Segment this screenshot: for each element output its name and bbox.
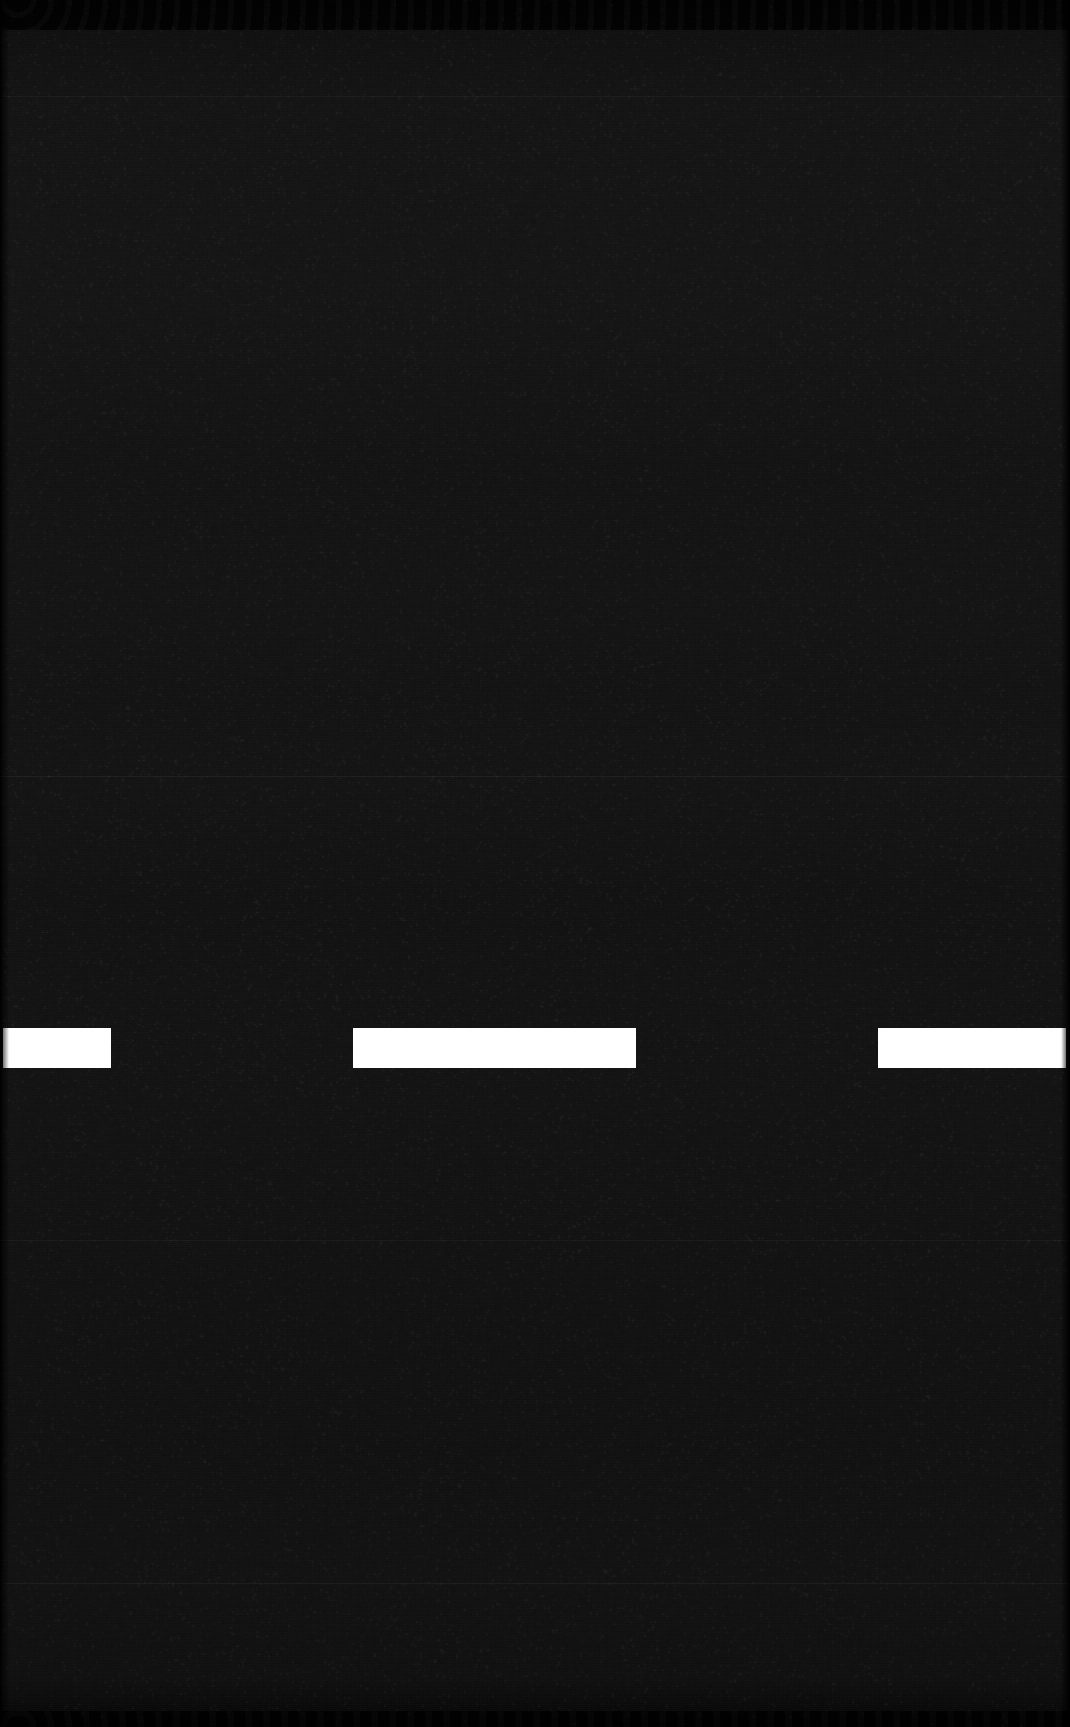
dash-mark-row bbox=[0, 1028, 1070, 1068]
dash-mark-3 bbox=[878, 1028, 1066, 1068]
scan-frame bbox=[0, 0, 1070, 1727]
field-band-layer bbox=[0, 0, 1070, 1727]
bottom-scallop-edge bbox=[0, 1711, 1070, 1727]
top-scallop-edge bbox=[0, 0, 1070, 30]
dash-mark-2 bbox=[353, 1028, 636, 1068]
dash-mark-1 bbox=[3, 1028, 111, 1068]
